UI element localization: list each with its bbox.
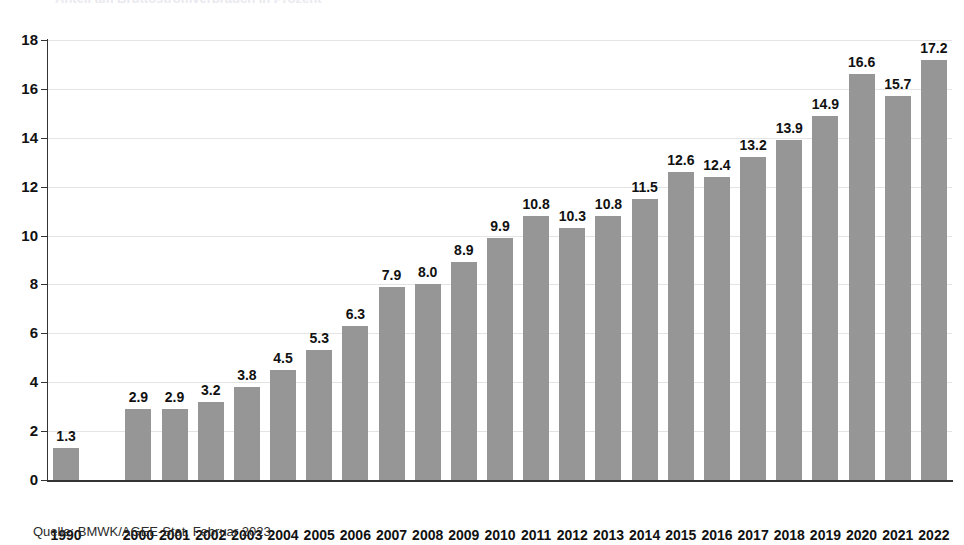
bar-group: 12.62015 [662, 40, 700, 480]
y-axis-labels: 024681012141618 [0, 0, 38, 512]
bar-group: 2.92000 [119, 40, 157, 480]
bar [885, 96, 911, 480]
x-axis-tick-label: 2022 [909, 527, 959, 543]
bar [740, 157, 766, 480]
bar-group: 5.32005 [300, 40, 338, 480]
plot-area: 1.319902.920002.920013.220023.820034.520… [48, 40, 952, 480]
y-axis-line [47, 39, 48, 481]
bar-group: 6.32006 [336, 40, 374, 480]
bar-group: 14.92019 [806, 40, 844, 480]
y-axis-tick-label: 14 [8, 129, 38, 146]
bar [595, 216, 621, 480]
bar [162, 409, 188, 480]
bar-group: 10.32012 [553, 40, 591, 480]
bar-group: 11.52014 [626, 40, 664, 480]
bar [921, 60, 947, 480]
bar [53, 448, 79, 480]
y-axis-tick-label: 2 [8, 422, 38, 439]
bar [632, 199, 658, 480]
bar-group: 7.92007 [373, 40, 411, 480]
y-axis-tick-label: 12 [8, 178, 38, 195]
bar-group: 3.82003 [228, 40, 266, 480]
bar [559, 228, 585, 480]
bar-chart: 024681012141618 1.319902.920002.920013.2… [0, 0, 964, 512]
bar-group: 4.52004 [264, 40, 302, 480]
bar [234, 387, 260, 480]
bar [704, 177, 730, 480]
bar-group: 13.22017 [734, 40, 772, 480]
bar [849, 74, 875, 480]
bar-group: 8.02008 [409, 40, 447, 480]
y-axis-tick-label: 4 [8, 373, 38, 390]
bar-group: 8.92009 [445, 40, 483, 480]
bar-group: 1.31990 [47, 40, 85, 480]
bar [342, 326, 368, 480]
bar [270, 370, 296, 480]
bar [451, 262, 477, 480]
y-axis-tick-label: 6 [8, 324, 38, 341]
bar [198, 402, 224, 480]
source-note: Quelle: BMWK/AGEE-Stat, Februar 2023 [33, 524, 271, 539]
bar [668, 172, 694, 480]
bar-gap [83, 40, 121, 480]
bar-group: 10.82011 [517, 40, 555, 480]
bar-group: 9.92010 [481, 40, 519, 480]
bar-group: 17.22022 [915, 40, 953, 480]
bar-group: 12.42016 [698, 40, 736, 480]
bar [125, 409, 151, 480]
bar-group: 16.62020 [843, 40, 881, 480]
bar [306, 350, 332, 480]
bar [523, 216, 549, 480]
x-axis-line [47, 480, 953, 482]
y-axis-tick-label: 10 [8, 227, 38, 244]
bar [487, 238, 513, 480]
bar-value-label: 17.2 [909, 40, 959, 56]
bar [379, 287, 405, 480]
bar-group: 10.82013 [589, 40, 627, 480]
bar-group: 15.72021 [879, 40, 917, 480]
y-axis-tick-label: 16 [8, 80, 38, 97]
bar-group: 3.22002 [192, 40, 230, 480]
y-axis-tick-label: 0 [8, 471, 38, 488]
y-axis-tick-label: 8 [8, 275, 38, 292]
bar [776, 140, 802, 480]
bar [415, 284, 441, 480]
y-axis-tick-label: 18 [8, 31, 38, 48]
bar [812, 116, 838, 480]
bar-group: 2.92001 [156, 40, 194, 480]
